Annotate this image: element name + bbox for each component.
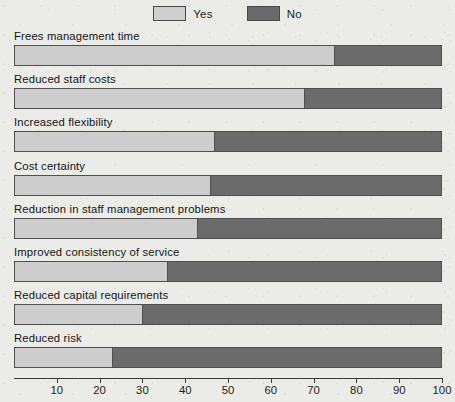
x-axis-tick: [228, 378, 229, 383]
bar-segment-no[interactable]: [305, 89, 441, 108]
bar-category-label: Reduced capital requirements: [14, 289, 168, 301]
x-axis-tick: [442, 378, 443, 383]
bar-segment-no[interactable]: [113, 348, 441, 367]
bar-segment-yes[interactable]: [15, 348, 113, 367]
stacked-bar-chart: Yes No Frees management timeReduced staf…: [0, 0, 455, 402]
bar-segment-yes[interactable]: [15, 262, 168, 281]
bar-segment-yes[interactable]: [15, 132, 215, 151]
stacked-bar[interactable]: [14, 88, 442, 109]
x-axis-tick: [100, 378, 101, 383]
stacked-bar[interactable]: [14, 131, 442, 152]
bar-segment-no[interactable]: [168, 262, 441, 281]
legend-swatch-no-icon: [247, 6, 280, 21]
legend-label-no: No: [287, 8, 302, 20]
legend-item-yes: Yes: [153, 6, 212, 21]
x-axis-tick: [185, 378, 186, 383]
x-axis-tick-label: 40: [179, 384, 192, 396]
stacked-bar[interactable]: [14, 218, 442, 239]
x-axis-tick-label: 70: [307, 384, 320, 396]
bar-segment-no[interactable]: [215, 132, 441, 151]
plot-area: Frees management timeReduced staff costs…: [0, 30, 455, 372]
x-axis: 102030405060708090100: [0, 378, 455, 402]
x-axis-tick-label: 50: [222, 384, 235, 396]
bar-category-label: Reduced risk: [14, 332, 82, 344]
stacked-bar[interactable]: [14, 347, 442, 368]
bar-segment-yes[interactable]: [15, 219, 198, 238]
x-axis-tick-label: 60: [265, 384, 278, 396]
stacked-bar[interactable]: [14, 45, 442, 66]
x-axis-tick-label: 80: [350, 384, 363, 396]
x-axis-tick: [399, 378, 400, 383]
bar-segment-no[interactable]: [335, 46, 442, 65]
bar-category-label: Reduction in staff management problems: [14, 203, 225, 215]
bar-segment-yes[interactable]: [15, 176, 211, 195]
legend-item-no: No: [247, 6, 302, 21]
bar-category-label: Frees management time: [14, 30, 140, 42]
x-axis-tick: [57, 378, 58, 383]
x-axis-tick: [271, 378, 272, 383]
x-axis-tick-label: 30: [136, 384, 149, 396]
bar-category-label: Increased flexibility: [14, 116, 113, 128]
stacked-bar[interactable]: [14, 261, 442, 282]
x-axis-tick-label: 90: [393, 384, 406, 396]
bar-category-label: Cost certainty: [14, 160, 85, 172]
x-axis-tick-label: 20: [93, 384, 106, 396]
legend-label-yes: Yes: [193, 8, 212, 20]
bar-category-label: Improved consistency of service: [14, 246, 179, 258]
bar-segment-no[interactable]: [198, 219, 441, 238]
bar-category-label: Reduced staff costs: [14, 73, 116, 85]
chart-legend: Yes No: [0, 6, 455, 21]
x-axis-tick: [142, 378, 143, 383]
bar-segment-yes[interactable]: [15, 305, 143, 324]
bar-segment-yes[interactable]: [15, 46, 335, 65]
x-axis-tick-label: 10: [51, 384, 64, 396]
bar-segment-yes[interactable]: [15, 89, 305, 108]
legend-swatch-yes-icon: [153, 6, 186, 21]
x-axis-tick: [314, 378, 315, 383]
bar-segment-no[interactable]: [143, 305, 441, 324]
stacked-bar[interactable]: [14, 304, 442, 325]
x-axis-tick: [356, 378, 357, 383]
stacked-bar[interactable]: [14, 175, 442, 196]
bar-segment-no[interactable]: [211, 176, 441, 195]
x-axis-tick-label: 100: [433, 384, 452, 396]
